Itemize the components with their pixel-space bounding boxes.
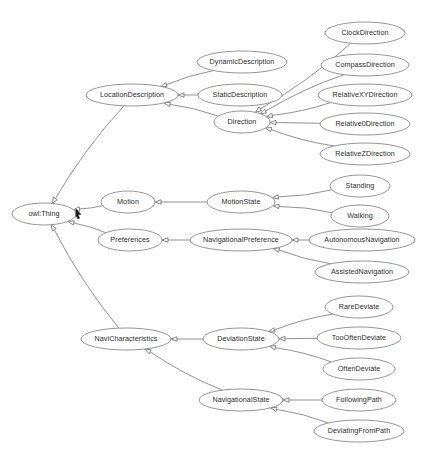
subclass-edge (278, 190, 331, 197)
node-ellipse[interactable] (320, 143, 410, 165)
class-node-preferences[interactable]: Preferences (98, 229, 162, 251)
subclass-edge (150, 352, 222, 390)
ontology-diagram-canvas: owl:ThingLocationDescriptionDynamicDescr… (0, 0, 422, 456)
node-ellipse[interactable] (207, 191, 275, 213)
subclass-arrowhead (162, 238, 168, 242)
node-ellipse[interactable] (325, 296, 393, 318)
subclass-edge (55, 106, 124, 199)
class-node-deviatingFromPath[interactable]: DeviatingFromPath (314, 420, 404, 442)
node-ellipse[interactable] (86, 84, 178, 106)
class-node-followingPath[interactable]: FollowingPath (322, 389, 396, 411)
node-ellipse[interactable] (322, 389, 396, 411)
node-ellipse[interactable] (321, 54, 409, 76)
node-ellipse[interactable] (198, 84, 282, 106)
node-ellipse[interactable] (190, 229, 292, 251)
subclass-arrowhead (283, 398, 289, 402)
class-node-motionState[interactable]: MotionState (207, 191, 275, 213)
class-node-navigationalPreference[interactable]: NavigationalPreference (190, 229, 292, 251)
node-ellipse[interactable] (315, 261, 409, 283)
nodes-layer: owl:ThingLocationDescriptionDynamicDescr… (12, 22, 415, 442)
class-node-rareDeviate[interactable]: RareDeviate (325, 296, 393, 318)
subclass-edge (272, 103, 330, 116)
class-node-oftenDeviate[interactable]: OftenDeviate (323, 358, 395, 380)
subclass-arrowhead (178, 93, 184, 97)
class-node-standing[interactable]: Standing (330, 175, 390, 197)
subclass-edge (166, 71, 213, 85)
node-ellipse[interactable] (98, 229, 162, 251)
class-node-deviationState[interactable]: DeviationState (203, 328, 279, 350)
class-node-walking[interactable]: Walking (331, 205, 389, 227)
subclass-arrowhead (51, 225, 56, 231)
class-node-assistedNavigation[interactable]: AssistedNavigation (315, 261, 409, 283)
node-ellipse[interactable] (323, 358, 395, 380)
class-node-owlThing[interactable]: owl:Thing (12, 203, 76, 225)
subclass-arrowhead (255, 107, 261, 112)
class-node-motion[interactable]: Motion (101, 191, 155, 213)
subclass-edge (276, 409, 328, 423)
subclass-arrowhead (265, 127, 271, 131)
node-ellipse[interactable] (325, 22, 405, 44)
class-node-direction[interactable]: Direction (214, 111, 270, 133)
node-ellipse[interactable] (203, 328, 279, 350)
class-node-tooOftenDeviate[interactable]: TooOftenDeviate (317, 327, 401, 349)
subclass-edge (279, 250, 331, 264)
class-node-relative0Direction[interactable]: Relative0Direction (320, 113, 410, 135)
subclass-arrowhead (145, 349, 151, 354)
class-node-naviCharacteristics[interactable]: NaviCharacteristics (81, 328, 171, 350)
subclass-arrowhead (68, 221, 74, 225)
node-ellipse[interactable] (197, 51, 287, 73)
node-ellipse[interactable] (101, 191, 155, 213)
subclass-edge (279, 206, 332, 212)
class-node-navigationalState[interactable]: NavigationalState (199, 389, 283, 411)
graph-svg: owl:ThingLocationDescriptionDynamicDescr… (0, 0, 422, 456)
node-ellipse[interactable] (331, 205, 389, 227)
subclass-edge (170, 104, 218, 116)
subclass-edge (275, 348, 331, 362)
class-node-relativeZDirection[interactable]: RelativeZDirection (320, 143, 410, 165)
subclass-edge (79, 206, 102, 209)
subclass-edge (276, 123, 320, 124)
class-node-clockDirection[interactable]: ClockDirection (325, 22, 405, 44)
node-ellipse[interactable] (330, 175, 390, 197)
subclass-arrowhead (279, 336, 285, 340)
subclass-edge (271, 130, 334, 146)
class-node-locationDescription[interactable]: LocationDescription (86, 84, 178, 106)
node-ellipse[interactable] (214, 111, 270, 133)
subclass-arrowhead (292, 238, 298, 242)
class-node-dynamicDescription[interactable]: DynamicDescription (197, 51, 287, 73)
node-ellipse[interactable] (199, 389, 283, 411)
node-ellipse[interactable] (12, 203, 76, 225)
class-node-autonomousNavigation[interactable]: AutonomousNavigation (309, 229, 415, 251)
subclass-edge (74, 223, 106, 233)
node-ellipse[interactable] (314, 420, 404, 442)
node-ellipse[interactable] (81, 328, 171, 350)
class-node-staticDescription[interactable]: StaticDescription (198, 84, 282, 106)
node-ellipse[interactable] (320, 113, 410, 135)
subclass-arrowhead (171, 337, 177, 341)
subclass-edge (275, 314, 333, 330)
subclass-arrowhead (155, 200, 161, 204)
class-node-compassDirection[interactable]: CompassDirection (321, 54, 409, 76)
node-ellipse[interactable] (318, 84, 412, 106)
node-ellipse[interactable] (317, 327, 401, 349)
class-node-relativeXYDirection[interactable]: RelativeXYDirection (318, 84, 412, 106)
subclass-arrowhead (52, 197, 57, 203)
subclass-arrowhead (270, 120, 276, 124)
node-ellipse[interactable] (309, 229, 415, 251)
